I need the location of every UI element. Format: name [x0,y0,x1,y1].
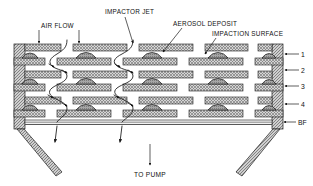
cascade-impactor-figure: AIR FLOW IMPACTOR JET AEROSOL DEPOSIT IM… [0,0,313,186]
plate-row-4 [14,79,283,92]
backup-filter-layer [25,120,272,125]
plate-row-2 [14,53,283,66]
impactor-jet-label: IMPACTOR JET [105,8,154,15]
label-air-flow: AIR FLOW [39,22,79,43]
stage-label-1: 1 [301,51,305,58]
stage-label-3: 3 [301,83,305,90]
stage-callouts: 1 2 3 4 BF [284,51,307,126]
aerosol-deposit-label: AEROSOL DEPOSIT [173,20,237,27]
funnel-wall-right [236,129,280,176]
label-impactor-jet: IMPACTOR JET [105,8,154,43]
to-pump-label: TO PUMP [134,171,166,178]
plate-row-6 [14,105,283,118]
air-flow-label: AIR FLOW [41,22,75,29]
outlet-funnel [17,129,280,176]
stage-label-4: 4 [301,101,305,108]
label-to-pump: TO PUMP [134,144,166,178]
stage-label-backup-filter: BF [298,119,307,126]
impaction-surface-label: IMPACTION SURFACE [212,30,283,37]
plate-row-3 [25,71,272,78]
funnel-wall-left [17,129,62,176]
stage-label-2: 2 [301,67,305,74]
